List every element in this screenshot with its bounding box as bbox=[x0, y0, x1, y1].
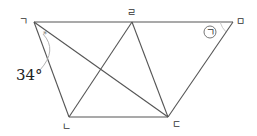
point-label-r: ㄹ bbox=[127, 7, 136, 18]
angle-mark: * bbox=[43, 30, 47, 39]
segment-n-r bbox=[69, 22, 132, 117]
segment-d-m bbox=[168, 22, 233, 117]
unknown-angle-label: ㄱ bbox=[206, 27, 215, 38]
point-label-g: ㄱ bbox=[19, 16, 28, 27]
point-label-n: ㄴ bbox=[62, 121, 71, 132]
angle-label-34: 34° bbox=[16, 66, 43, 84]
segment-r-d bbox=[132, 22, 168, 117]
point-label-d: ㄷ bbox=[172, 119, 181, 130]
geometry-diagram: * 34° ㄱ ㄱ ㄹ ㅁ ㄴ ㄷ bbox=[0, 0, 257, 136]
unknown-angle-arc bbox=[220, 22, 226, 32]
point-label-m: ㅁ bbox=[236, 16, 245, 27]
